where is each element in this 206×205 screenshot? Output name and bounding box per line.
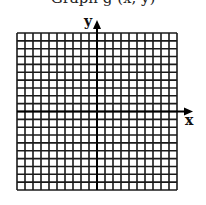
y-axis-label: y bbox=[84, 14, 92, 28]
x-axis-label: x bbox=[185, 113, 193, 127]
y-axis-arrow-icon bbox=[93, 20, 101, 29]
coordinate-grid bbox=[0, 0, 206, 205]
